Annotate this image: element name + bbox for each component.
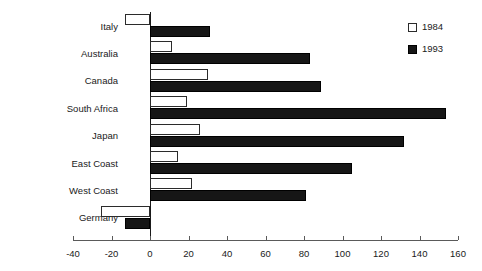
x-axis-tick-label: 0: [147, 249, 152, 259]
legend-label-1993: 1993: [422, 44, 443, 54]
x-axis-tick: [266, 236, 267, 240]
bar-italy-1984: [125, 14, 150, 25]
bar-japan-1993: [150, 136, 404, 147]
bar-germany-1993: [125, 218, 150, 229]
x-axis-tick: [458, 236, 459, 240]
x-axis-tick: [227, 236, 228, 240]
legend-item-1993: 1993: [408, 38, 478, 60]
x-axis-tick: [73, 236, 74, 240]
x-axis-tick: [189, 236, 190, 240]
x-axis-tick: [304, 236, 305, 240]
bar-italy-1993: [150, 26, 210, 37]
x-axis-tick-label: 120: [373, 249, 389, 259]
legend-label-1984: 1984: [422, 22, 443, 32]
x-axis-tick: [381, 236, 382, 240]
x-axis-tick-label: 160: [450, 249, 466, 259]
x-axis-tick-label: 60: [260, 249, 271, 259]
bar-canada-1993: [150, 81, 321, 92]
x-axis-line: [73, 240, 458, 241]
bar-australia-1984: [150, 41, 172, 52]
legend-item-1984: 1984: [408, 16, 478, 38]
bar-west-coast-1984: [150, 178, 192, 189]
bar-east-coast-1993: [150, 163, 352, 174]
bar-germany-1984: [101, 206, 150, 217]
bar-south-africa-1993: [150, 108, 446, 119]
x-axis-tick-label: 140: [412, 249, 428, 259]
x-axis-tick: [112, 236, 113, 240]
black-square-icon: [408, 45, 417, 54]
bar-canada-1984: [150, 69, 208, 80]
x-axis-tick: [343, 236, 344, 240]
bar-south-africa-1984: [150, 96, 187, 107]
x-axis-tick-label: -40: [66, 249, 80, 259]
x-axis-tick-label: 100: [335, 249, 351, 259]
chart-legend: 1984 1993: [408, 16, 478, 60]
white-square-outline-icon: [408, 23, 417, 32]
bar-east-coast-1984: [150, 151, 178, 162]
x-axis-tick: [150, 236, 151, 240]
x-axis-tick-label: 20: [183, 249, 194, 259]
x-axis-tick-label: 40: [222, 249, 233, 259]
bar-australia-1993: [150, 53, 310, 64]
x-axis-tick-label: -20: [105, 249, 119, 259]
x-axis-tick: [420, 236, 421, 240]
bar-japan-1984: [150, 124, 200, 135]
bar-west-coast-1993: [150, 190, 306, 201]
bar-chart: ItalyAustraliaCanadaSouth AfricaJapanEas…: [0, 0, 482, 271]
x-axis-tick-label: 80: [299, 249, 310, 259]
